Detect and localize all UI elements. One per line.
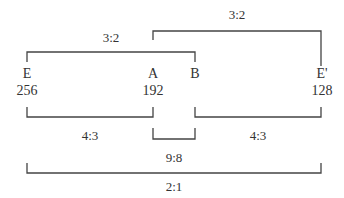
node-b-label: B — [190, 67, 199, 81]
bracket-a-eprime — [153, 31, 321, 66]
bracket-b-eprime — [195, 107, 321, 117]
node-a-value: 192 — [143, 84, 164, 98]
node-eprime-label: E' — [316, 67, 327, 81]
ratio-label-e-a: 4:3 — [82, 129, 99, 142]
ratio-label-a-eprime: 3:2 — [229, 8, 246, 21]
bracket-e-a — [27, 107, 153, 117]
ratio-label-a-b: 9:8 — [166, 151, 183, 164]
ratio-label-e-eprime: 2:1 — [166, 180, 183, 193]
node-a-label: A — [148, 67, 158, 81]
bracket-e-b — [27, 52, 195, 62]
bracket-lines — [0, 0, 344, 198]
node-eprime-value: 128 — [312, 84, 333, 98]
bracket-a-b — [153, 128, 195, 139]
node-e-value: 256 — [17, 84, 38, 98]
ratio-label-b-eprime: 4:3 — [250, 129, 267, 142]
node-e-label: E — [23, 67, 32, 81]
ratio-label-e-b: 3:2 — [103, 31, 120, 44]
